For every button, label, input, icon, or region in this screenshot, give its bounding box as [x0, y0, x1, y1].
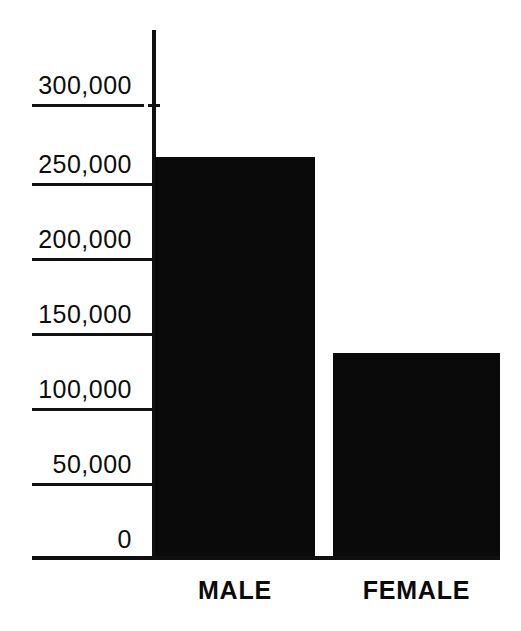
bar-chart: 300,000 250,000 200,000 150,000 100,000 …	[0, 0, 521, 631]
y-tick-label-100000: 100,000	[38, 377, 132, 402]
y-tick-rule-200000	[32, 258, 157, 261]
y-tick-rule-150000	[32, 333, 157, 336]
y-tick-rule-50000	[32, 483, 157, 486]
bar-male	[155, 157, 315, 558]
x-axis-line	[32, 556, 500, 560]
y-tick-rule-250000	[32, 183, 157, 186]
y-tick-rule-100000	[32, 408, 157, 411]
y-tick-stub-300000	[148, 104, 160, 107]
y-tick-label-50000: 50,000	[53, 452, 132, 477]
plot-area: 300,000 250,000 200,000 150,000 100,000 …	[0, 0, 521, 631]
y-tick-label-250000: 250,000	[38, 152, 132, 177]
y-tick-label-200000: 200,000	[38, 227, 132, 252]
bar-female	[333, 353, 500, 558]
y-tick-rule-300000	[32, 104, 144, 107]
x-category-label-female: FEMALE	[333, 576, 500, 605]
y-tick-label-0: 0	[118, 527, 132, 552]
y-tick-label-150000: 150,000	[38, 302, 132, 327]
y-tick-label-300000: 300,000	[38, 73, 132, 98]
x-category-label-male: MALE	[155, 576, 315, 605]
